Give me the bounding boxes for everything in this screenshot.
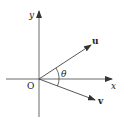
vector-v-label: v bbox=[97, 96, 104, 106]
y-axis-label: y bbox=[28, 10, 35, 20]
angle-arc bbox=[56, 68, 59, 86]
x-axis-label: x bbox=[111, 81, 116, 91]
vector-angle-diagram: y x O u v θ bbox=[0, 0, 120, 126]
vector-v bbox=[39, 79, 95, 100]
vector-u-label: u bbox=[92, 36, 99, 46]
origin-label: O bbox=[27, 81, 34, 91]
angle-theta-label: θ bbox=[61, 69, 67, 79]
